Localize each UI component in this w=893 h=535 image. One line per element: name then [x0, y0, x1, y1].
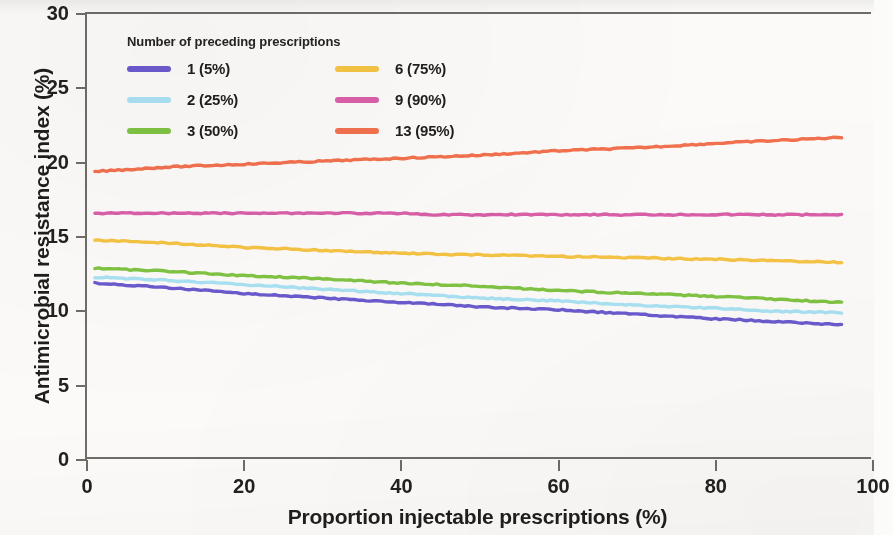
y-tick — [76, 385, 87, 387]
legend-entry: 6 (75%) — [335, 60, 446, 77]
x-tick-label: 0 — [57, 476, 117, 496]
legend-color-swatch — [335, 66, 379, 72]
y-tick — [76, 13, 87, 15]
legend-color-swatch — [127, 97, 171, 103]
y-tick-label: 10 — [21, 300, 69, 320]
x-tick — [86, 460, 88, 471]
x-tick-label: 60 — [529, 476, 589, 496]
legend-entry-label: 9 (90%) — [395, 91, 446, 108]
y-tick-label: 5 — [21, 375, 69, 395]
x-tick-label: 80 — [686, 476, 746, 496]
y-tick — [76, 236, 87, 238]
legend-entry-label: 3 (50%) — [187, 122, 238, 139]
legend-entry-label: 2 (25%) — [187, 91, 238, 108]
legend-entries: 1 (5%)2 (25%)3 (50%)6 (75%)9 (90%)13 (95… — [127, 60, 527, 152]
x-tick — [558, 460, 560, 471]
y-tick-label: 15 — [21, 226, 69, 246]
legend-entry: 1 (5%) — [127, 60, 230, 77]
y-tick-label: 20 — [21, 152, 69, 172]
y-tick — [76, 87, 87, 89]
x-tick — [715, 460, 717, 471]
legend-entry: 3 (50%) — [127, 122, 238, 139]
legend-color-swatch — [127, 128, 171, 134]
legend-entry: 13 (95%) — [335, 122, 454, 139]
legend-color-swatch — [127, 66, 171, 72]
legend-color-swatch — [335, 97, 379, 103]
x-axis-title: Proportion injectable prescriptions (%) — [85, 505, 870, 529]
series-line — [95, 283, 842, 325]
legend-entry-label: 1 (5%) — [187, 60, 230, 77]
legend-entry-label: 13 (95%) — [395, 122, 454, 139]
y-tick-label: 30 — [21, 3, 69, 23]
x-tick-label: 20 — [214, 476, 274, 496]
x-tick-label: 100 — [843, 476, 893, 496]
y-tick-label: 0 — [21, 449, 69, 469]
y-tick — [76, 162, 87, 164]
legend-entry: 9 (90%) — [335, 91, 446, 108]
plot-area: Number of preceding prescriptions 1 (5%)… — [85, 12, 871, 458]
series-line — [95, 213, 842, 216]
legend-entry: 2 (25%) — [127, 91, 238, 108]
x-tick-label: 40 — [371, 476, 431, 496]
legend-entry-label: 6 (75%) — [395, 60, 446, 77]
legend: Number of preceding prescriptions 1 (5%)… — [127, 34, 547, 152]
x-tick — [400, 460, 402, 471]
legend-color-swatch — [335, 128, 379, 134]
legend-title: Number of preceding prescriptions — [127, 34, 547, 49]
y-tick — [76, 310, 87, 312]
x-tick — [872, 460, 874, 471]
series-line — [95, 240, 842, 263]
x-tick — [243, 460, 245, 471]
y-tick-label: 25 — [21, 77, 69, 97]
